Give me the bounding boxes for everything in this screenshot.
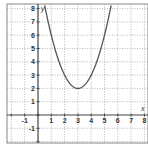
x-axis-label: x [140, 105, 145, 112]
x-tick-label: 5 [103, 117, 107, 124]
x-tick-label: 8 [142, 117, 146, 124]
y-tick-label: 3 [31, 72, 35, 79]
y-tick-label: 7 [31, 18, 35, 25]
x-tick-label: 7 [129, 117, 133, 124]
parabola-chart: -112345678-112345678 x y [0, 0, 148, 150]
x-tick-label: 6 [116, 117, 120, 124]
x-tick-label: 4 [89, 117, 93, 124]
y-tick-label: 8 [31, 5, 35, 12]
y-tick-label: 6 [31, 32, 35, 39]
y-tick-label: -1 [29, 125, 35, 132]
y-tick-label: 1 [31, 98, 35, 105]
y-tick-label: 2 [31, 85, 35, 92]
y-tick-label: 5 [31, 45, 35, 52]
x-tick-label: 2 [63, 117, 67, 124]
x-tick-label: 3 [76, 117, 80, 124]
x-tick-label: -1 [22, 117, 28, 124]
y-axis-label: y [40, 5, 45, 13]
x-tick-label: 1 [49, 117, 53, 124]
y-tick-label: 4 [31, 58, 35, 65]
